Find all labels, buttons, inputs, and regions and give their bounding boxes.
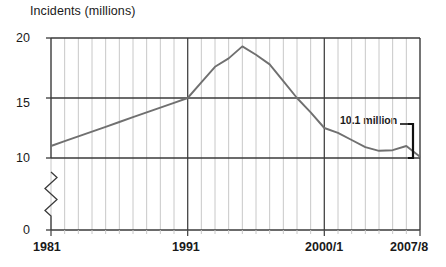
horizontal-gridlines [51, 98, 420, 158]
plot-canvas [0, 0, 446, 267]
x-axis-ticks [51, 230, 420, 236]
plot-frame [51, 38, 420, 230]
data-series-line [51, 46, 420, 156]
minor-gridlines [51, 38, 420, 230]
incidents-line-chart: Incidents (millions) 20 15 10 0 1981 199… [0, 0, 446, 267]
